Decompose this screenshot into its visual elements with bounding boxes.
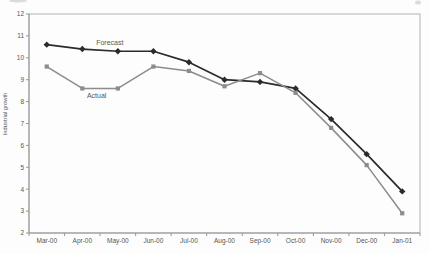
- x-tick-label: Jun-00: [143, 237, 163, 244]
- y-tick-label: 9: [20, 76, 24, 83]
- scan-artifact: [9, 0, 27, 3]
- forecast-marker: [79, 46, 85, 52]
- industrial-growth-chart: 23456789101112Mar-00Apr-00May-00Jun-00Ju…: [0, 0, 429, 254]
- y-tick-label: 11: [17, 32, 24, 39]
- x-tick-label: Sep-00: [250, 237, 271, 245]
- forecast-marker: [221, 77, 227, 83]
- x-tick-label: Jan-01: [392, 237, 412, 244]
- actual-marker: [151, 64, 155, 68]
- y-tick-label: 6: [20, 142, 24, 149]
- y-tick-label: 12: [17, 10, 25, 17]
- x-tick-label: Jul-00: [180, 237, 198, 244]
- actual-marker: [329, 126, 333, 130]
- actual-marker: [80, 86, 84, 90]
- chart-figure: 23456789101112Mar-00Apr-00May-00Jun-00Ju…: [0, 0, 429, 254]
- actual-marker: [293, 91, 297, 95]
- actual-marker: [45, 64, 49, 68]
- actual-line: [47, 67, 402, 214]
- x-tick-label: Dec-00: [356, 237, 377, 244]
- y-tick-label: 2: [20, 229, 24, 236]
- x-tick-label: Mar-00: [36, 237, 57, 244]
- x-tick-label: May-00: [107, 237, 129, 245]
- forecast-series: Forecast: [44, 39, 406, 194]
- plot-frame: [29, 14, 420, 233]
- actual-marker: [222, 84, 226, 88]
- x-tick-label: Oct-00: [286, 237, 306, 244]
- x-tick-label: Aug-00: [214, 237, 235, 245]
- forecast-marker: [257, 79, 263, 85]
- forecast-marker: [115, 48, 121, 54]
- y-tick-label: 5: [20, 164, 24, 171]
- y-tick-label: 10: [17, 54, 25, 61]
- y-tick-label: 8: [20, 98, 24, 105]
- forecast-line: [47, 45, 402, 192]
- actual-marker: [187, 69, 191, 73]
- actual-marker: [365, 163, 369, 167]
- y-tick-label: 7: [20, 120, 24, 127]
- y-axis-title: Industrial growth: [2, 93, 8, 136]
- actual-marker: [258, 71, 262, 75]
- forecast-series-label: Forecast: [96, 39, 123, 46]
- x-tick-label: Apr-00: [73, 237, 93, 245]
- actual-series-label: Actual: [87, 92, 107, 99]
- actual-series: Actual: [45, 64, 405, 215]
- actual-marker: [400, 211, 404, 215]
- y-tick-label: 3: [20, 207, 24, 214]
- forecast-marker: [186, 59, 192, 65]
- forecast-marker: [150, 48, 156, 54]
- y-tick-label: 4: [20, 186, 24, 193]
- scan-artifact: [415, 1, 421, 5]
- actual-marker: [116, 86, 120, 90]
- x-tick-label: Nov-00: [321, 237, 342, 244]
- forecast-marker: [44, 41, 50, 47]
